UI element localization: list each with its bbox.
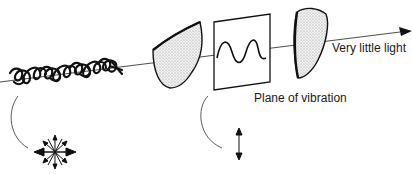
- arrowhead-icon: [399, 27, 412, 36]
- arc-connector: [11, 96, 28, 148]
- output-light-label: Very little light: [332, 41, 406, 55]
- unpolarized-arrows-icon: [34, 135, 76, 169]
- plane-of-vibration-panel: [214, 14, 270, 90]
- vertical-arrow-icon: [236, 128, 242, 160]
- unpolarized-light: [10, 59, 122, 84]
- polarization-diagram: [0, 0, 412, 174]
- plane-of-vibration-label: Plane of vibration: [254, 91, 347, 105]
- first-polarizer: [153, 22, 202, 88]
- second-polarizer: [294, 8, 328, 78]
- arc-connector-2: [201, 96, 222, 148]
